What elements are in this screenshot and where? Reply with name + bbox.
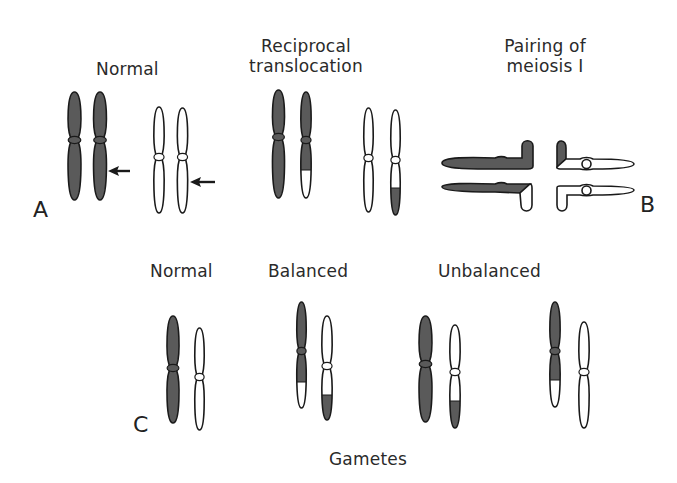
chromosome-C-unbal2-white bbox=[579, 322, 589, 428]
chromosome-A-normal-white-1 bbox=[154, 107, 164, 213]
pair-bottom-right-white bbox=[557, 185, 634, 212]
chromosome-diagram bbox=[0, 0, 677, 483]
chromosome-C-balanced-white bbox=[315, 316, 339, 422]
chromosome-A-trans-dark-1 bbox=[273, 90, 285, 198]
chromosomes-group bbox=[68, 90, 589, 430]
chromosome-C-normal-dark bbox=[167, 316, 179, 423]
chromosome-A-trans-dark-2 bbox=[294, 92, 318, 200]
chromosome-C-unbal1-white bbox=[443, 325, 467, 430]
chromosome-A-trans-white-2 bbox=[385, 110, 407, 217]
chromosome-C-unbal1-dark bbox=[419, 316, 432, 422]
chromosome-C-unbal2-dark bbox=[543, 302, 567, 409]
pair-bottom-left-dark-arm bbox=[442, 183, 530, 194]
pairing-quadrivalent bbox=[442, 141, 634, 211]
chromosome-C-balanced-dark bbox=[291, 302, 313, 410]
chromosome-A-normal-white-2 bbox=[177, 108, 187, 213]
chromosome-A-normal-dark-2 bbox=[94, 92, 107, 200]
chromosome-C-normal-white bbox=[195, 328, 204, 430]
pair-top-left-chromosome bbox=[442, 141, 533, 169]
pair-top-right-white-arm bbox=[557, 158, 634, 170]
chromosome-A-normal-dark-1 bbox=[68, 92, 81, 200]
chromosome-A-trans-white-1 bbox=[364, 108, 373, 212]
